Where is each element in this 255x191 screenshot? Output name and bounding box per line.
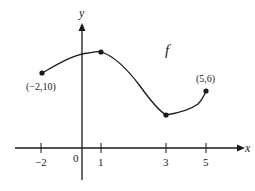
tick-label-3: 3 (163, 157, 169, 168)
point-max-dot (98, 49, 103, 54)
function-curve-f (42, 52, 206, 115)
tick-label-5: 5 (203, 157, 209, 168)
origin-label: 0 (73, 153, 79, 164)
point-end-dot (203, 88, 208, 93)
tick-label-neg2: −2 (35, 157, 47, 168)
x-axis-arrow-icon (237, 145, 245, 152)
point-end-label: (5,6) (196, 74, 215, 84)
point-start-label: (−2,10) (26, 82, 56, 92)
y-axis-arrow-icon (79, 23, 86, 31)
function-label: f (165, 43, 169, 58)
tick-label-1: 1 (98, 157, 104, 168)
x-axis-label: x (245, 142, 250, 154)
point-start-dot (39, 70, 44, 75)
point-min-dot (163, 112, 168, 117)
y-axis-label: y (79, 7, 84, 19)
